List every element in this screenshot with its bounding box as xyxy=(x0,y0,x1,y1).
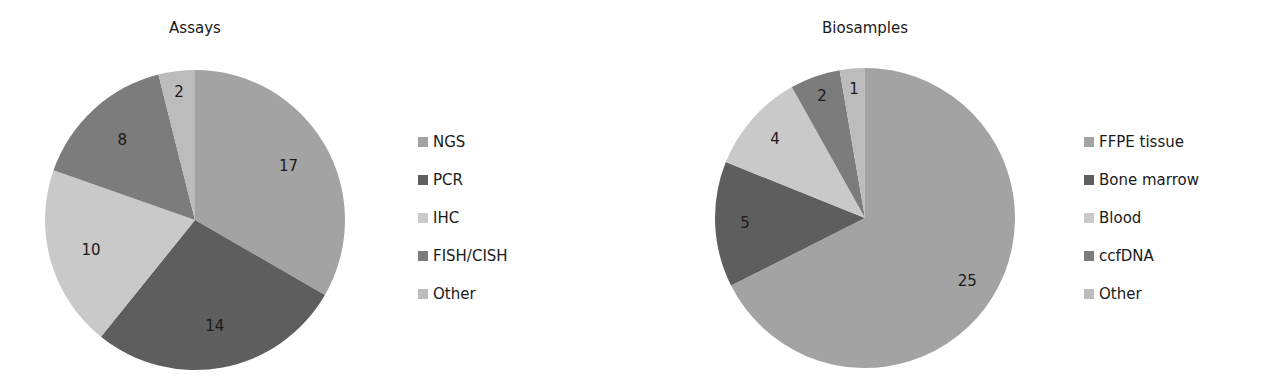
data-label: 5 xyxy=(740,214,750,232)
legend-label: Blood xyxy=(1099,209,1141,227)
legend-item: IHC xyxy=(418,209,459,227)
legend-label: Other xyxy=(433,285,476,303)
legend-swatch-icon xyxy=(1084,213,1094,223)
legend-item: PCR xyxy=(418,171,463,189)
legend-label: Bone marrow xyxy=(1099,171,1199,189)
legend-swatch-icon xyxy=(1084,289,1094,299)
legend-swatch-icon xyxy=(418,251,428,261)
legend-item: NGS xyxy=(418,133,465,151)
assays-pie: 17141082 xyxy=(0,0,640,378)
data-label: 14 xyxy=(205,317,224,335)
legend-swatch-icon xyxy=(1084,137,1094,147)
legend-label: FFPE tissue xyxy=(1099,133,1184,151)
legend-swatch-icon xyxy=(418,137,428,147)
legend-item: ccfDNA xyxy=(1084,247,1154,265)
legend-swatch-icon xyxy=(418,213,428,223)
biosamples-chart: Biosamples 255421 FFPE tissueBone marrow… xyxy=(640,0,1263,378)
legend-item: Bone marrow xyxy=(1084,171,1199,189)
data-label: 25 xyxy=(958,272,977,290)
data-label: 4 xyxy=(770,130,780,148)
data-label: 2 xyxy=(174,83,184,101)
legend-item: Blood xyxy=(1084,209,1141,227)
legend-label: NGS xyxy=(433,133,465,151)
legend-item: FISH/CISH xyxy=(418,247,508,265)
legend-swatch-icon xyxy=(418,175,428,185)
legend-item: FFPE tissue xyxy=(1084,133,1184,151)
legend-item: Other xyxy=(418,285,476,303)
legend-label: ccfDNA xyxy=(1099,247,1154,265)
legend-item: Other xyxy=(1084,285,1142,303)
data-label: 1 xyxy=(849,80,859,98)
data-label: 8 xyxy=(117,131,127,149)
legend-label: PCR xyxy=(433,171,463,189)
legend-label: FISH/CISH xyxy=(433,247,508,265)
data-label: 17 xyxy=(279,157,298,175)
legend-label: IHC xyxy=(433,209,459,227)
legend-swatch-icon xyxy=(1084,251,1094,261)
assays-chart: Assays 17141082 NGSPCRIHCFISH/CISHOther xyxy=(0,0,640,378)
biosamples-pie: 255421 xyxy=(640,0,1263,378)
data-label: 2 xyxy=(817,87,827,105)
legend-label: Other xyxy=(1099,285,1142,303)
data-label: 10 xyxy=(82,241,101,259)
legend-swatch-icon xyxy=(1084,175,1094,185)
legend-swatch-icon xyxy=(418,289,428,299)
